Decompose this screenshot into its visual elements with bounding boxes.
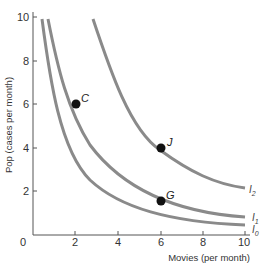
curve-label-i0: I0 [252,224,259,237]
y-ticks: 2 4 6 8 10 [17,11,37,197]
point-g [157,197,166,206]
y-tick-8: 8 [23,55,29,67]
point-c [72,100,81,109]
x-tick-4: 4 [115,236,121,248]
curve-i2 [93,19,245,188]
y-tick-6: 6 [23,98,29,110]
point-j [157,144,166,153]
x-tick-6: 6 [158,236,164,248]
x-tick-10: 10 [238,236,250,248]
curve-i0 [42,19,245,225]
label-c: C [81,92,89,104]
curve-i1 [48,19,245,217]
x-ticks: 0 2 4 6 8 10 [20,231,250,248]
svg-text:I2: I2 [249,184,256,197]
y-tick-10: 10 [17,11,29,23]
x-axis-label: Movies (per month) [168,252,250,263]
y-tick-2: 2 [23,185,29,197]
indifference-curve-chart: 2 4 6 8 10 0 2 4 6 8 10 Movies (per mont… [0,0,269,269]
y-axis-label: Pop (cases per month) [3,77,14,173]
y-tick-4: 4 [23,142,29,154]
x-tick-2: 2 [72,236,78,248]
label-j: J [166,136,173,148]
label-g: G [166,189,175,201]
curve-label-i2: I2 [249,184,256,197]
svg-text:I0: I0 [252,224,259,237]
x-tick-8: 8 [200,236,206,248]
x-tick-0: 0 [20,236,26,248]
